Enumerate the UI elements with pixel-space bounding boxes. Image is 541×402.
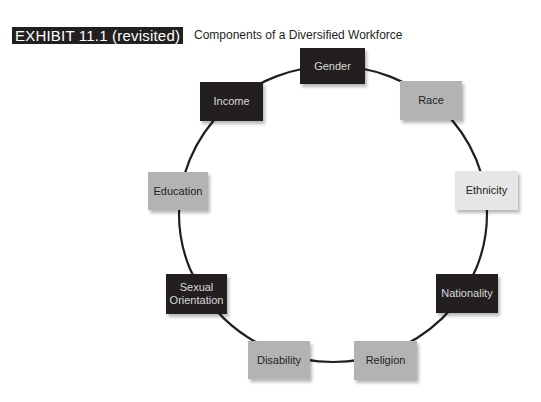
node-label: Religion — [366, 354, 406, 367]
node-label: Education — [154, 185, 203, 198]
node-nationality: Nationality — [436, 274, 498, 313]
node-education: Education — [148, 172, 208, 210]
node-ethnicity: Ethnicity — [455, 171, 518, 210]
node-religion: Religion — [354, 341, 417, 380]
node-label: Ethnicity — [466, 184, 508, 197]
node-gender: Gender — [300, 48, 365, 84]
node-sexual-orientation: Sexual Orientation — [166, 274, 227, 314]
node-label: Race — [418, 94, 444, 107]
node-label: Income — [213, 95, 249, 108]
node-label: Gender — [314, 60, 351, 73]
node-disability: Disability — [248, 341, 310, 379]
node-label: Nationality — [441, 287, 492, 300]
node-race: Race — [400, 81, 462, 120]
node-income: Income — [200, 82, 263, 121]
node-label: Sexual Orientation — [168, 281, 225, 307]
node-label: Disability — [257, 354, 301, 367]
